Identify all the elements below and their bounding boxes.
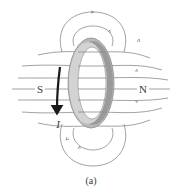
north-pole-label: N	[139, 83, 147, 95]
field-line-bottom-outer	[60, 124, 125, 166]
south-pole-label: S	[37, 83, 43, 95]
figure-caption: (a)	[85, 175, 96, 187]
current-loop-ring	[68, 38, 114, 128]
ring-hole	[78, 47, 106, 119]
current-loop-field-diagram: S N I (a)	[0, 0, 183, 192]
current-direction-arrow	[57, 67, 60, 109]
current-label: I	[55, 118, 61, 130]
